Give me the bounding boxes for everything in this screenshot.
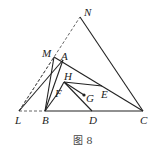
segment-MB bbox=[45, 57, 54, 111]
label-G: G bbox=[86, 92, 94, 104]
label-N: N bbox=[83, 6, 92, 18]
label-B: B bbox=[42, 114, 49, 126]
geometry-figure: N M A H F E G L B D C 图 8 bbox=[0, 0, 162, 153]
label-M: M bbox=[41, 47, 52, 59]
segment-AL bbox=[19, 60, 63, 111]
label-L: L bbox=[14, 114, 21, 126]
label-F: F bbox=[54, 87, 62, 99]
label-H: H bbox=[63, 70, 73, 82]
segment-LM bbox=[19, 57, 54, 111]
figure-caption: 图 8 bbox=[73, 135, 93, 146]
diagram-canvas: N M A H F E G L B D C 图 8 bbox=[0, 0, 162, 153]
solid-lines bbox=[19, 17, 143, 111]
label-C: C bbox=[140, 114, 148, 126]
label-A: A bbox=[60, 50, 68, 62]
segment-AB bbox=[45, 60, 63, 111]
label-D: D bbox=[88, 114, 97, 126]
label-E: E bbox=[100, 88, 108, 100]
